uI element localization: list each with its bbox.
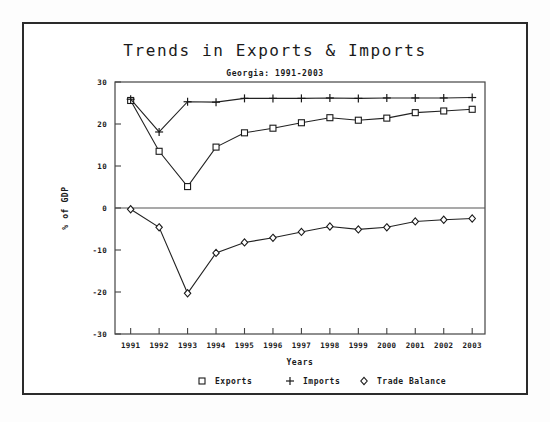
marker-diamond: [469, 215, 475, 222]
marker-diamond: [156, 224, 162, 231]
marker-plus: [383, 94, 391, 102]
x-tick-label: 1997: [292, 341, 311, 350]
marker-square: [213, 144, 219, 150]
legend-label: Imports: [303, 377, 340, 386]
y-axis-title: % of GDP: [61, 186, 70, 229]
marker-square: [156, 148, 162, 154]
y-tick-label: -20: [93, 288, 108, 297]
legend-item-exports[interactable]: Exports: [199, 377, 252, 386]
marker-plus: [241, 94, 249, 102]
x-tick-label: 1991: [121, 341, 140, 350]
marker-diamond: [270, 234, 276, 241]
y-tick-label: 0: [102, 204, 107, 213]
series-imports: [127, 94, 477, 136]
marker-square: [355, 117, 361, 123]
marker-diamond: [355, 226, 361, 233]
marker-square: [242, 130, 248, 136]
series-line: [131, 98, 473, 132]
marker-square: [412, 110, 418, 116]
legend-label: Exports: [215, 377, 252, 386]
x-tick-label: 1992: [149, 341, 168, 350]
series-line: [131, 100, 473, 186]
marker-square: [185, 184, 191, 190]
chart-frame-border: Trends in Exports & Imports Georgia: 199…: [22, 22, 528, 395]
x-axis: 1991199219931994199519961997199819992000…: [121, 328, 482, 350]
marker-diamond: [384, 224, 390, 231]
y-tick-label: -30: [93, 330, 108, 339]
series-line: [131, 209, 473, 293]
marker-diamond: [412, 218, 418, 225]
page-canvas: Trends in Exports & Imports Georgia: 199…: [0, 0, 550, 422]
x-tick-label: 2000: [377, 341, 396, 350]
x-tick-label: 2001: [406, 341, 425, 350]
y-tick-label: 30: [97, 78, 107, 87]
marker-plus: [212, 98, 220, 106]
y-tick-label: 10: [97, 162, 107, 171]
marker-plus: [297, 94, 305, 102]
series-trade-balance: [127, 206, 475, 297]
marker-plus: [440, 94, 448, 102]
y-tick-label: 20: [97, 120, 107, 129]
marker-plus: [286, 377, 294, 385]
x-tick-label: 1995: [235, 341, 254, 350]
y-tick-label: -10: [93, 246, 108, 255]
marker-square: [469, 106, 475, 112]
marker-diamond: [361, 377, 367, 384]
x-tick-label: 1996: [263, 341, 282, 350]
marker-square: [441, 108, 447, 114]
x-tick-label: 2003: [463, 341, 482, 350]
chart-title: Trends in Exports & Imports: [123, 41, 426, 60]
legend-item-imports[interactable]: Imports: [286, 377, 340, 386]
series-exports: [128, 97, 476, 189]
marker-square: [270, 125, 276, 131]
marker-diamond: [327, 223, 333, 230]
trends-line-chart: Trends in Exports & Imports Georgia: 199…: [24, 24, 526, 393]
marker-diamond: [127, 206, 133, 213]
marker-square: [327, 115, 333, 121]
marker-plus: [411, 94, 419, 102]
marker-plus: [468, 94, 476, 102]
marker-square: [384, 115, 390, 121]
marker-plus: [326, 94, 334, 102]
chart-subtitle: Georgia: 1991-2003: [226, 68, 324, 78]
marker-diamond: [298, 228, 304, 235]
x-tick-label: 1999: [349, 341, 368, 350]
chart-legend: ExportsImportsTrade Balance: [199, 377, 446, 386]
marker-plus: [269, 94, 277, 102]
legend-item-trade-balance[interactable]: Trade Balance: [361, 377, 446, 386]
x-tick-label: 1993: [178, 341, 197, 350]
marker-square: [199, 378, 205, 384]
marker-diamond: [441, 216, 447, 223]
x-tick-label: 2002: [434, 341, 453, 350]
x-axis-title: Years: [286, 358, 313, 367]
x-tick-label: 1994: [206, 341, 225, 350]
data-series-layer: [127, 94, 477, 297]
marker-diamond: [241, 239, 247, 246]
y-axis: 3020100-10-20-30: [93, 78, 121, 339]
marker-square: [298, 120, 304, 126]
legend-label: Trade Balance: [377, 377, 446, 386]
x-tick-label: 1998: [320, 341, 339, 350]
marker-plus: [354, 94, 362, 102]
